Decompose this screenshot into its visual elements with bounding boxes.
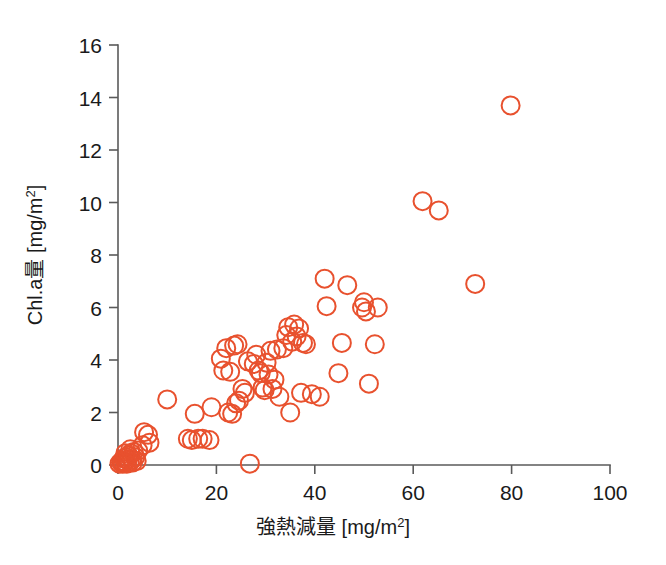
scatter-point xyxy=(338,276,356,294)
y-tick-label: 4 xyxy=(90,349,102,372)
y-tick-label: 14 xyxy=(79,87,103,110)
svg-text:Chl.a量 [mg/m2]: Chl.a量 [mg/m2] xyxy=(23,185,46,326)
y-axis-title: Chl.a量 [mg/m2] xyxy=(23,185,46,326)
plot-canvas: 0246810121416 020406080100 強熱減量 [mg/m2] … xyxy=(0,0,666,565)
scatter-point xyxy=(270,388,288,406)
x-axis-title-unit-close: ] xyxy=(404,516,410,538)
x-tick-label: 100 xyxy=(592,481,627,504)
y-axis-title-unit-base: [mg/m xyxy=(24,197,46,253)
y-axis-title-unit-sup: 2 xyxy=(23,190,38,197)
data-points xyxy=(110,96,519,472)
x-axis-title: 強熱減量 [mg/m2] xyxy=(256,515,410,538)
scatter-point xyxy=(430,201,448,219)
scatter-point xyxy=(316,270,334,288)
scatter-point xyxy=(360,375,378,393)
scatter-point xyxy=(202,398,220,416)
scatter-point xyxy=(414,192,432,210)
y-tick-label: 0 xyxy=(90,454,102,477)
x-tick-label: 80 xyxy=(500,481,523,504)
x-axis-title-unit-base: [mg/m xyxy=(342,516,398,538)
y-axis-ticks: 0246810121416 xyxy=(79,34,118,477)
scatter-plot-figure: 0246810121416 020406080100 強熱減量 [mg/m2] … xyxy=(0,0,666,565)
scatter-point xyxy=(329,364,347,382)
x-tick-label: 60 xyxy=(402,481,425,504)
x-tick-label: 40 xyxy=(303,481,326,504)
scatter-point xyxy=(281,404,299,422)
y-axis-title-main: Chl.a量 xyxy=(24,259,46,326)
x-axis-ticks: 020406080100 xyxy=(112,465,627,504)
scatter-point xyxy=(333,334,351,352)
scatter-point xyxy=(366,335,384,353)
scatter-point xyxy=(502,96,520,114)
y-tick-label: 2 xyxy=(90,402,102,425)
y-tick-label: 10 xyxy=(79,192,102,215)
y-tick-label: 6 xyxy=(90,297,102,320)
scatter-point xyxy=(186,405,204,423)
axes: 0246810121416 020406080100 xyxy=(79,34,628,504)
svg-text:強熱減量 [mg/m2]: 強熱減量 [mg/m2] xyxy=(256,515,410,538)
y-tick-label: 8 xyxy=(90,244,102,267)
y-axis-title-unit-close: ] xyxy=(24,185,46,191)
scatter-point xyxy=(318,297,336,315)
x-tick-label: 20 xyxy=(205,481,228,504)
y-tick-label: 12 xyxy=(79,139,102,162)
x-axis-title-main: 強熱減量 xyxy=(256,516,336,538)
scatter-point xyxy=(158,390,176,408)
y-tick-label: 16 xyxy=(79,34,102,57)
scatter-point xyxy=(241,455,259,473)
scatter-point xyxy=(466,275,484,293)
x-tick-label: 0 xyxy=(112,481,124,504)
x-axis-title-unit-sup: 2 xyxy=(397,515,404,530)
